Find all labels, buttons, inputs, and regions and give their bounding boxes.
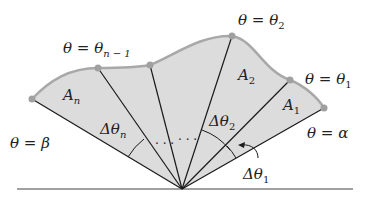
point-theta-1 [287, 77, 294, 84]
label-delta-theta-1: Δθ1 [242, 165, 269, 185]
label-theta-2: θ = θ2 [238, 11, 285, 31]
point-theta-n-minus-1 [95, 65, 102, 72]
polar-area-diagram: θ = β θ = α θ = θ1 θ = θ2 θ = θn − 1 An … [0, 0, 375, 202]
point-mid [147, 62, 154, 69]
label-theta-beta: θ = β [10, 134, 50, 152]
label-theta-alpha: θ = α [307, 124, 348, 142]
point-theta-2 [229, 33, 236, 40]
point-alpha [321, 105, 328, 112]
label-theta-1: θ = θ1 [305, 70, 352, 90]
ellipsis-dots: · · · [178, 133, 197, 147]
point-beta [29, 96, 36, 103]
shaded-region [32, 36, 324, 189]
label-theta-n-minus-1: θ = θn − 1 [63, 39, 131, 59]
ellipsis: · · · [155, 137, 174, 151]
